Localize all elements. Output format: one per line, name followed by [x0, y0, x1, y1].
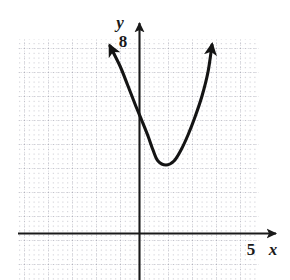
x-tick-label-5: 5 — [247, 240, 256, 259]
x-axis-label: x — [268, 240, 278, 259]
y-axis-label: y — [114, 13, 124, 32]
coordinate-plane: y 8 x 5 — [0, 0, 290, 280]
graph-figure: y 8 x 5 — [0, 0, 290, 280]
y-tick-label-8: 8 — [119, 32, 128, 51]
grid — [18, 39, 259, 280]
